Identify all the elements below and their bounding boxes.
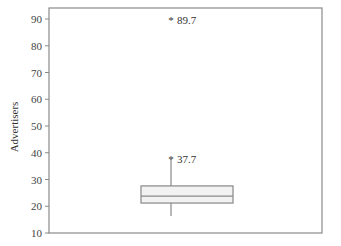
outlier-label: 37.7	[177, 153, 197, 165]
y-tick-label: 90	[31, 13, 43, 25]
y-tick-label: 20	[31, 200, 43, 212]
outlier-marker-icon: *	[168, 153, 174, 165]
y-tick-label: 50	[31, 120, 43, 132]
labeled-points: *37.7*89.7	[168, 14, 197, 165]
box-plot: 102030405060708090 Advertisers *37.7*89.…	[0, 0, 341, 246]
iqr-box	[141, 186, 233, 203]
box-element	[141, 159, 233, 216]
y-tick-label: 40	[31, 147, 43, 159]
y-tick-label: 80	[31, 40, 43, 52]
y-axis-title: Advertisers	[8, 102, 20, 153]
y-tick-label: 10	[31, 227, 43, 239]
y-tick-label: 30	[31, 174, 43, 186]
outlier-label: 89.7	[177, 14, 197, 26]
y-tick-label: 70	[31, 67, 43, 79]
y-axis: 102030405060708090	[31, 13, 49, 239]
y-tick-label: 60	[31, 93, 43, 105]
outlier-marker-icon: *	[168, 14, 174, 26]
